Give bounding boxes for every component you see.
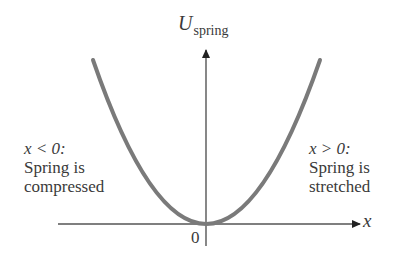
y-axis-label-main: U bbox=[178, 12, 192, 34]
right-condition: x > 0: bbox=[309, 139, 370, 158]
x-axis-label: x bbox=[363, 210, 371, 232]
right-line1: Spring is bbox=[309, 158, 370, 177]
spring-potential-diagram: Uspring x 0 x < 0: Spring is compressed … bbox=[0, 0, 414, 258]
left-line2: compressed bbox=[24, 177, 104, 196]
left-line1: Spring is bbox=[24, 158, 104, 177]
left-annotation: x < 0: Spring is compressed bbox=[24, 139, 104, 196]
right-line2: stretched bbox=[309, 177, 370, 196]
origin-label: 0 bbox=[191, 228, 200, 248]
graph-canvas bbox=[0, 0, 414, 258]
y-axis-label-sub: spring bbox=[193, 23, 228, 38]
right-annotation: x > 0: Spring is stretched bbox=[309, 139, 370, 196]
left-condition: x < 0: bbox=[24, 139, 104, 158]
y-axis-label: Uspring bbox=[178, 12, 228, 35]
